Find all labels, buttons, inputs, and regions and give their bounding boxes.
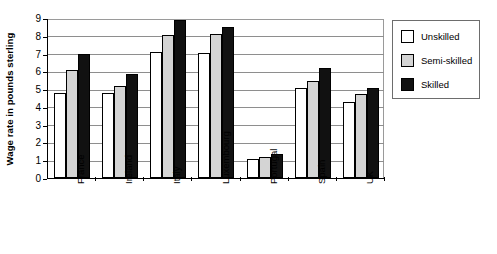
y-tick-label: 4	[27, 103, 41, 113]
bar-italy-semi-skilled	[162, 35, 174, 178]
x-label-france: France	[76, 154, 86, 184]
bar-uk-unskilled	[343, 102, 355, 178]
bar-ireland-unskilled	[102, 93, 114, 178]
bar-chart: Wage rate in pounds sterling 0123456789 …	[0, 0, 497, 254]
x-label-italy: Italy	[172, 167, 182, 184]
legend-swatch-semi-skilled	[401, 54, 414, 67]
bar-group	[48, 19, 96, 178]
legend-swatch-skilled	[401, 78, 414, 91]
bar-uk-skilled	[367, 88, 379, 178]
y-tick-label: 1	[27, 156, 41, 166]
y-tick-label: 3	[27, 121, 41, 131]
y-tick-label: 9	[27, 14, 41, 24]
legend: UnskilledSemi-skilledSkilled	[392, 20, 480, 99]
y-axis-title: Wage rate in pounds sterling	[2, 19, 18, 179]
bar-group	[96, 19, 144, 178]
bar-group	[337, 19, 385, 178]
bar-luxembourg-unskilled	[198, 53, 210, 178]
bar-france-unskilled	[54, 93, 66, 178]
y-tick-mark	[43, 179, 47, 180]
y-tick-label: 6	[27, 67, 41, 77]
y-tick-label: 2	[27, 138, 41, 148]
y-tick-label: 5	[27, 85, 41, 95]
bar-spain-unskilled	[295, 88, 307, 178]
x-label-luxembourg: Luxembourg	[221, 131, 231, 184]
plot-area	[47, 19, 384, 179]
y-axis-title-text: Wage rate in pounds sterling	[2, 19, 18, 179]
bar-group	[192, 19, 240, 178]
legend-swatch-unskilled	[401, 30, 414, 43]
x-label-ireland: Ireland	[124, 155, 134, 184]
bar-group	[241, 19, 289, 178]
bar-group	[144, 19, 192, 178]
legend-label-unskilled: Unskilled	[421, 31, 460, 43]
y-tick-label: 7	[27, 50, 41, 60]
bar-italy-skilled	[174, 20, 186, 178]
x-label-spain: Spain	[317, 160, 327, 184]
bar-group	[289, 19, 337, 178]
legend-label-semi-skilled: Semi-skilled	[421, 55, 472, 67]
bar-uk-semi-skilled	[355, 94, 367, 178]
y-tick-label: 8	[27, 32, 41, 42]
x-label-uk: UK	[365, 171, 375, 184]
x-label-portugal: Portugal	[269, 149, 279, 184]
bar-portugal-unskilled	[247, 159, 259, 178]
y-tick-label: 0	[27, 174, 41, 184]
legend-label-skilled: Skilled	[421, 79, 449, 91]
bar-italy-unskilled	[150, 52, 162, 178]
x-axis-tick	[384, 177, 385, 181]
